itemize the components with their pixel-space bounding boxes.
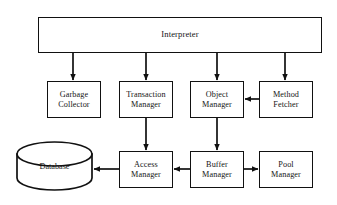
node-method-fetcher-label-line-1: Method <box>273 90 299 99</box>
node-buffer-manager-label-line-2: Manager <box>202 170 232 179</box>
node-database[interactable]: Database <box>17 162 92 171</box>
node-transaction-manager-label-line-2: Manager <box>131 100 161 109</box>
architecture-diagram: Interpreter Garbage Collector Transactio… <box>0 0 337 205</box>
node-garbage-collector-label-line-2: Collector <box>58 100 89 109</box>
node-access-manager[interactable]: Access Manager <box>119 151 173 188</box>
node-transaction-manager-label-line-1: Transaction <box>126 90 165 99</box>
node-garbage-collector[interactable]: Garbage Collector <box>47 81 101 118</box>
node-garbage-collector-label-line-1: Garbage <box>60 90 88 99</box>
node-object-manager-label-line-1: Object <box>206 90 228 99</box>
node-method-fetcher[interactable]: Method Fetcher <box>259 81 313 118</box>
node-access-manager-label-line-1: Access <box>134 160 158 169</box>
node-pool-manager-label-line-1: Pool <box>278 160 293 169</box>
node-object-manager[interactable]: Object Manager <box>190 81 244 118</box>
node-method-fetcher-label-line-2: Fetcher <box>273 100 298 109</box>
node-database-label: Database <box>39 162 69 171</box>
node-access-manager-label-line-2: Manager <box>131 170 161 179</box>
node-interpreter[interactable]: Interpreter <box>38 17 322 53</box>
node-buffer-manager[interactable]: Buffer Manager <box>190 151 244 188</box>
node-interpreter-label-line-1: Interpreter <box>161 30 198 40</box>
node-buffer-manager-label-line-1: Buffer <box>206 160 228 169</box>
node-pool-manager-label-line-2: Manager <box>271 170 301 179</box>
node-object-manager-label-line-2: Manager <box>202 100 232 109</box>
node-pool-manager[interactable]: Pool Manager <box>259 151 313 188</box>
node-transaction-manager[interactable]: Transaction Manager <box>119 81 173 118</box>
